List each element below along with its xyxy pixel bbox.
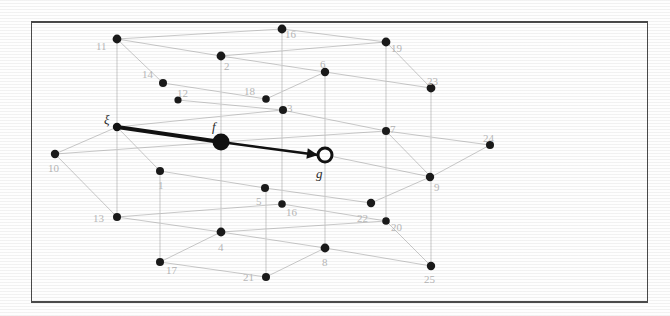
node-number-label: 11	[96, 41, 107, 52]
node-number-label: 23	[427, 76, 438, 87]
node-number-label: 5	[256, 196, 262, 207]
node-number-label: 21	[243, 272, 254, 283]
node-number-label: 14	[142, 69, 153, 80]
math-label-xi: ξ	[104, 113, 110, 126]
figure-border-frame	[31, 21, 648, 303]
node-number-label: 8	[322, 257, 328, 268]
node-number-label: 13	[93, 213, 104, 224]
node-number-label: 25	[424, 274, 435, 285]
node-number-label: 1	[158, 180, 164, 191]
node-number-label: 3	[287, 103, 293, 114]
node-number-label: 19	[391, 43, 402, 54]
node-number-label: 2	[224, 61, 230, 72]
node-number-label: 16	[285, 29, 296, 40]
math-label-g: g	[316, 167, 323, 180]
node-number-label: 20	[391, 222, 402, 233]
node-number-label: 7	[390, 124, 396, 135]
node-number-label: 9	[434, 182, 440, 193]
node-number-label: 18	[244, 86, 255, 97]
node-number-label: 10	[48, 163, 59, 174]
node-number-label: 17	[166, 265, 177, 276]
node-number-label: 6	[320, 59, 326, 70]
node-number-label: 16	[286, 207, 297, 218]
node-number-label: 24	[483, 133, 494, 144]
node-number-label: 12	[177, 88, 188, 99]
node-number-label: 4	[218, 242, 224, 253]
figure-canvas: 1234567891011121314161617181920212223242…	[0, 0, 670, 316]
math-label-f: f	[212, 120, 216, 133]
node-number-label: 22	[357, 213, 368, 224]
